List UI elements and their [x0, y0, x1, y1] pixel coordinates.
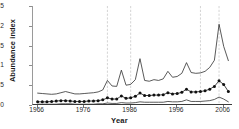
y-tick-label: 2: [0, 22, 4, 29]
series-line-0: [38, 24, 229, 94]
data-point: [218, 79, 221, 82]
y-axis-label: Abundance index: [8, 15, 17, 87]
data-point: [204, 89, 207, 92]
data-point: [64, 99, 67, 102]
y-tick-label: 1: [0, 61, 4, 68]
data-point: [185, 88, 188, 91]
data-point: [106, 96, 109, 99]
data-point: [120, 94, 123, 97]
data-point: [92, 100, 95, 103]
plot-area: [32, 6, 232, 105]
y-tick-mark: [29, 6, 32, 7]
x-tick-mark: [130, 105, 131, 108]
x-axis-label: Year: [0, 116, 239, 125]
y-tick-label: 0.5: [0, 81, 4, 88]
data-point: [50, 100, 53, 103]
x-tick-mark: [83, 105, 84, 108]
data-point: [78, 100, 81, 103]
abundance-index-chart: Abundance index 00.511.522.5 19661976198…: [0, 0, 239, 129]
data-point: [227, 90, 230, 93]
data-point: [83, 100, 86, 103]
data-point: [157, 94, 160, 97]
x-tick-mark: [176, 105, 177, 108]
data-point: [129, 96, 132, 99]
data-point: [101, 98, 104, 101]
y-tick-mark: [29, 65, 32, 66]
data-point: [87, 100, 90, 103]
x-tick-label: 2006: [203, 106, 239, 113]
y-tick-mark: [29, 46, 32, 47]
data-point: [208, 88, 211, 91]
data-point: [125, 97, 128, 100]
data-point: [73, 100, 76, 103]
data-point: [222, 83, 225, 86]
y-tick-mark: [29, 85, 32, 86]
data-point: [180, 91, 183, 94]
data-point: [143, 94, 146, 97]
data-point: [115, 98, 118, 101]
y-tick-label: 2.5: [0, 2, 4, 9]
x-tick-mark: [37, 105, 38, 108]
y-tick-label: 0: [0, 101, 4, 108]
data-point: [194, 90, 197, 93]
x-tick-mark: [223, 105, 224, 108]
data-point: [111, 98, 114, 101]
data-point: [69, 100, 72, 103]
data-point: [166, 91, 169, 94]
data-point: [41, 100, 44, 103]
data-point: [97, 99, 100, 102]
data-point: [199, 90, 202, 93]
data-point: [59, 99, 62, 102]
data-point: [134, 95, 137, 98]
data-point: [138, 92, 141, 95]
data-point: [45, 100, 48, 103]
y-tick-mark: [29, 26, 32, 27]
data-point: [171, 92, 174, 95]
plot-svg: [33, 6, 232, 105]
data-point: [176, 92, 179, 95]
data-point: [190, 90, 193, 93]
data-point: [36, 100, 39, 103]
data-point: [162, 93, 165, 96]
data-point: [55, 100, 58, 103]
data-point: [148, 94, 151, 97]
y-tick-label: 1.5: [0, 42, 4, 49]
data-point: [152, 94, 155, 97]
data-point: [213, 85, 216, 88]
